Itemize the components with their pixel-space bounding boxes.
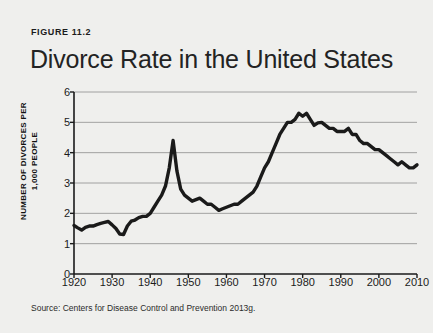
chart-plot-area: NUMBER OF DIVORCES PER 1,000 PEOPLE 0123… <box>0 0 433 333</box>
x-tick-label: 1990 <box>329 276 353 288</box>
x-tick-label: 1950 <box>176 276 200 288</box>
x-tick-label: 1930 <box>100 276 124 288</box>
x-tick-label: 1960 <box>214 276 238 288</box>
y-tick-label: 3 <box>48 177 70 189</box>
x-tick-label: 2000 <box>367 276 391 288</box>
figure-card: FIGURE 11.2 Divorce Rate in the United S… <box>0 0 433 333</box>
x-tick-label: 1940 <box>138 276 162 288</box>
x-tick-label: 2010 <box>405 276 429 288</box>
source-note: Source: Centers for Disease Control and … <box>31 303 255 313</box>
y-tick-label: 1 <box>48 238 70 250</box>
x-tick-label: 1920 <box>62 276 86 288</box>
y-axis-label-line1: NUMBER OF DIVORCES PER <box>19 102 28 220</box>
y-tick-label: 2 <box>48 207 70 219</box>
y-tick-label: 4 <box>48 147 70 159</box>
y-tick-label: 5 <box>48 116 70 128</box>
x-tick-label: 1970 <box>252 276 276 288</box>
data-series-line <box>74 113 417 234</box>
y-axis-label-line2: 1,000 PEOPLE <box>30 132 39 190</box>
y-axis-label: NUMBER OF DIVORCES PER 1,000 PEOPLE <box>18 96 40 226</box>
x-tick-label: 1980 <box>290 276 314 288</box>
y-tick-label: 6 <box>48 86 70 98</box>
